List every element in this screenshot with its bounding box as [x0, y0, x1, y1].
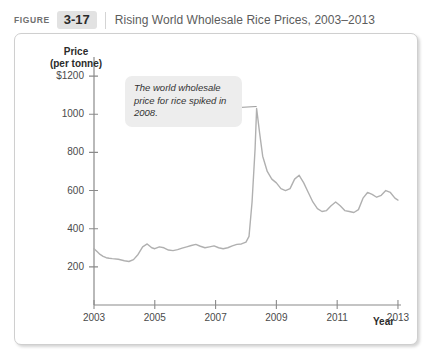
- figure-number-badge: 3-17: [57, 11, 97, 29]
- x-axis-tick-label: 2007: [196, 312, 236, 323]
- x-axis-tick-label: 2013: [378, 312, 418, 323]
- x-axis-tick-label: 2005: [135, 312, 175, 323]
- y-axis-title-line2: (per tonne): [37, 58, 115, 70]
- annotation-text: The world wholesale price for rice spike…: [134, 82, 234, 120]
- y-axis-tick-label: 800: [38, 146, 84, 157]
- y-axis-tick-label: 400: [38, 223, 84, 234]
- header-divider: [105, 12, 106, 29]
- figure-label: FIGURE: [14, 15, 50, 25]
- x-axis-tick-label: 2009: [256, 312, 296, 323]
- y-axis-title: Price(per tonne): [37, 46, 115, 70]
- price-series-line: [94, 109, 398, 262]
- y-axis-tick-label: 200: [38, 261, 84, 272]
- y-axis-title-line1: Price: [37, 46, 115, 58]
- figure-header: FIGURE 3-17 Rising World Wholesale Rice …: [14, 10, 432, 30]
- x-axis-tick-label: 2003: [74, 312, 114, 323]
- annotation-callout: The world wholesale price for rice spike…: [125, 76, 242, 127]
- y-axis-tick-label: 1000: [38, 108, 84, 119]
- chart-panel: Price(per tonne) Year 2004006008001000$1…: [14, 33, 418, 345]
- y-axis-tick-label: 600: [38, 185, 84, 196]
- y-axis-tick-label: $1200: [38, 70, 84, 81]
- page-title: Rising World Wholesale Rice Prices, 2003…: [115, 13, 375, 27]
- x-axis-tick-label: 2011: [317, 312, 357, 323]
